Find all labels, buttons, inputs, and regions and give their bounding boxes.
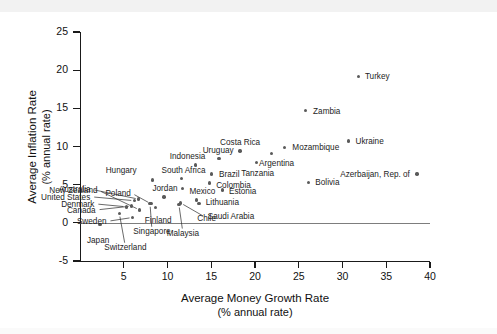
y-tick-mark bbox=[73, 70, 80, 71]
x-tick-label: 15 bbox=[194, 271, 228, 282]
leader-line bbox=[120, 217, 125, 243]
leader-line bbox=[94, 197, 131, 200]
data-point bbox=[197, 202, 200, 205]
x-tick-label: 30 bbox=[326, 271, 360, 282]
point-label: New Zealand bbox=[49, 185, 97, 194]
leader-line bbox=[98, 204, 123, 206]
x-tick-label: 10 bbox=[151, 271, 185, 282]
data-point bbox=[133, 199, 136, 202]
point-label: Azerbaijan, Rep. of bbox=[340, 169, 410, 178]
data-point bbox=[130, 204, 133, 207]
y-tick-mark bbox=[73, 108, 80, 109]
point-label: Bolivia bbox=[315, 178, 339, 187]
data-point bbox=[238, 149, 241, 152]
x-tick-mark bbox=[254, 262, 255, 268]
data-point bbox=[154, 206, 157, 209]
x-tick-label: 25 bbox=[282, 271, 316, 282]
point-label: Mexico bbox=[189, 187, 215, 196]
data-point bbox=[151, 178, 154, 181]
point-label: Singapore bbox=[133, 226, 170, 235]
x-tick-mark bbox=[123, 262, 124, 268]
point-label: Zambia bbox=[313, 106, 340, 115]
data-point bbox=[131, 216, 134, 219]
x-tick-mark bbox=[167, 262, 168, 268]
point-label: Hungary bbox=[106, 166, 137, 175]
x-tick-mark bbox=[342, 262, 343, 268]
point-label: Jordan bbox=[152, 183, 177, 192]
y-axis-title-sub: (% annual rate) bbox=[39, 32, 53, 262]
data-point bbox=[307, 181, 310, 184]
point-label: Saudi Arabia bbox=[208, 211, 254, 220]
y-tick-mark bbox=[73, 260, 80, 261]
data-point bbox=[180, 177, 183, 180]
data-point bbox=[210, 172, 213, 175]
point-label: Argentina bbox=[259, 159, 294, 168]
y-tick-mark bbox=[73, 146, 80, 147]
zero-reference-line bbox=[80, 223, 430, 224]
scatter-plot-figure: -50510152025 510152025303540 JapanSwitze… bbox=[0, 0, 497, 334]
point-label: Switzerland bbox=[104, 242, 146, 251]
data-point bbox=[357, 75, 360, 78]
point-label: Canada bbox=[67, 206, 96, 215]
data-point bbox=[217, 157, 220, 160]
data-point bbox=[181, 187, 184, 190]
data-point bbox=[270, 152, 273, 155]
data-point bbox=[255, 161, 258, 164]
data-point bbox=[138, 208, 141, 211]
data-point bbox=[149, 202, 152, 205]
data-point bbox=[137, 197, 140, 200]
data-point bbox=[347, 139, 350, 142]
point-label: South Africa bbox=[161, 165, 205, 174]
x-tick-label: 5 bbox=[107, 271, 141, 282]
point-label: Finland bbox=[145, 215, 172, 224]
y-axis-line bbox=[80, 32, 81, 262]
data-point bbox=[125, 205, 128, 208]
point-label: Poland bbox=[105, 188, 131, 197]
leader-line bbox=[110, 218, 129, 221]
x-axis-title-sub: (% annual rate) bbox=[80, 305, 430, 319]
leader-line bbox=[179, 207, 182, 228]
point-label: Malaysia bbox=[167, 228, 199, 237]
data-point bbox=[179, 201, 182, 204]
data-point bbox=[415, 172, 418, 175]
point-label: Lithuania bbox=[206, 197, 239, 206]
point-label: Costa Rica bbox=[220, 138, 260, 147]
point-label: Sweden bbox=[77, 217, 107, 226]
point-label: Turkey bbox=[365, 72, 390, 81]
x-tick-label: 35 bbox=[369, 271, 403, 282]
x-tick-mark bbox=[386, 262, 387, 268]
x-axis-title-main: Average Money Growth Rate bbox=[80, 291, 430, 305]
point-label: Brazil bbox=[219, 169, 239, 178]
x-tick-mark bbox=[211, 262, 212, 268]
data-point bbox=[208, 181, 211, 184]
x-tick-mark bbox=[429, 262, 430, 268]
data-point bbox=[194, 163, 197, 166]
data-point bbox=[283, 146, 286, 149]
point-label: Mozambique bbox=[292, 143, 339, 152]
y-axis-title-main: Average Inflation Rate bbox=[25, 32, 39, 262]
data-point bbox=[304, 109, 307, 112]
x-tick-mark bbox=[298, 262, 299, 268]
x-axis-title: Average Money Growth Rate (% annual rate… bbox=[80, 291, 430, 319]
plot-area: -50510152025 510152025303540 JapanSwitze… bbox=[0, 0, 497, 334]
data-point bbox=[118, 212, 121, 215]
x-tick-label: 20 bbox=[238, 271, 272, 282]
point-label: Tanzania bbox=[241, 168, 274, 177]
y-tick-mark bbox=[73, 31, 80, 32]
data-point bbox=[221, 188, 224, 191]
leader-line-layer bbox=[0, 0, 497, 334]
point-label: Estonia bbox=[229, 187, 256, 196]
point-label: Ukraine bbox=[356, 137, 384, 146]
y-axis-title: Average Inflation Rate (% annual rate) bbox=[25, 32, 53, 262]
x-tick-label: 40 bbox=[413, 271, 447, 282]
point-label: Indonesia bbox=[170, 151, 206, 160]
data-point bbox=[162, 195, 165, 198]
